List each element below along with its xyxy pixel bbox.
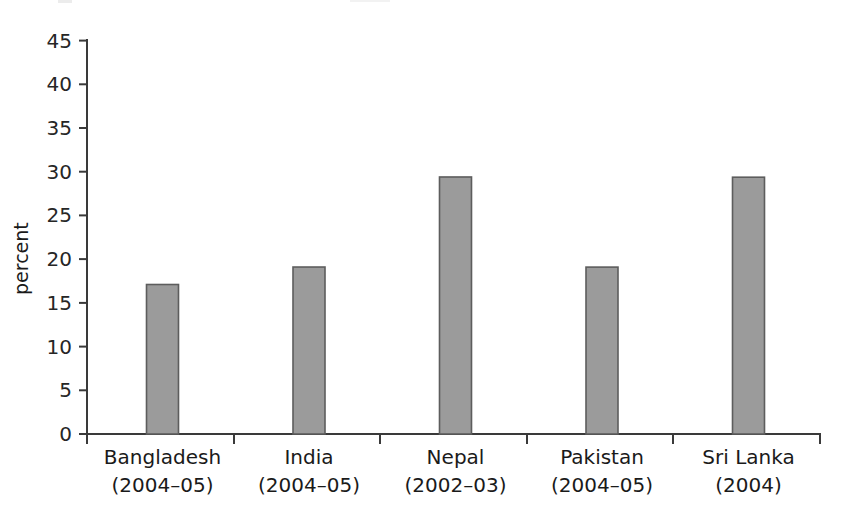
y-tick-labels: 0 5 10 15 20 25 30 35 40 45 (47, 29, 72, 446)
y-tick-label: 10 (47, 335, 72, 359)
chart-canvas: 0 5 10 15 20 25 30 35 40 45 percent (0, 0, 845, 507)
y-tick-label: 45 (47, 29, 72, 53)
y-tick-label: 5 (59, 378, 72, 402)
category-label-year: (2004–05) (258, 473, 360, 497)
y-tick-label: 35 (47, 116, 72, 140)
y-tick-label: 0 (59, 422, 72, 446)
bar-bangladesh (147, 285, 179, 434)
category-label-name: Nepal (427, 445, 485, 469)
bar-chart: 0 5 10 15 20 25 30 35 40 45 percent (0, 0, 845, 507)
bar-sri-lanka (733, 177, 765, 434)
y-tick-label: 15 (47, 291, 72, 315)
category-label-year: (2004–05) (551, 473, 653, 497)
category-label-year: (2002–03) (405, 473, 507, 497)
y-tick-marks (79, 41, 87, 434)
category-label-name: Sri Lanka (702, 445, 794, 469)
scan-artifact-top (58, 0, 390, 3)
x-category-labels: Bangladesh (2004–05) India (2004–05) Nep… (104, 445, 795, 497)
category-label-year: (2004) (715, 473, 782, 497)
category-label-name: Bangladesh (104, 445, 221, 469)
y-tick-label: 30 (47, 160, 72, 184)
y-tick-label: 20 (47, 247, 72, 271)
y-axis-title: percent (10, 222, 32, 295)
category-label-name: India (284, 445, 333, 469)
y-tick-label: 40 (47, 72, 72, 96)
category-label-name: Pakistan (560, 445, 644, 469)
bar-nepal (440, 177, 472, 434)
x-tick-marks (87, 434, 673, 444)
bar-series (147, 177, 765, 434)
bar-india (293, 267, 325, 434)
category-label-year: (2004–05) (112, 473, 214, 497)
y-tick-label: 25 (47, 203, 72, 227)
bar-pakistan (586, 267, 618, 434)
